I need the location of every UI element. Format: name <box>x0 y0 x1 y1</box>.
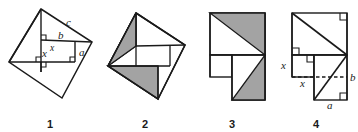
small-square-3 <box>210 55 232 77</box>
figure-1-graphic: c b a x x <box>0 0 100 110</box>
figure-4: x x b a 4 <box>274 0 358 132</box>
figure-4-caption: 4 <box>274 118 358 130</box>
figure-2: 2 <box>100 0 190 132</box>
figure-4-graphic: x x b a <box>274 0 358 110</box>
figure-2-caption: 2 <box>100 118 190 130</box>
label-b-4: b <box>350 71 356 83</box>
label-a-1: a <box>79 46 85 58</box>
small-square-4 <box>292 55 314 77</box>
label-a-4: a <box>327 99 333 110</box>
figure-2-graphic <box>100 0 190 110</box>
label-c-1: c <box>66 16 71 28</box>
figure-1-caption: 1 <box>0 118 100 130</box>
label-x-4a: x <box>280 59 286 71</box>
figure-3: 3 <box>190 0 274 132</box>
label-x-1a: x <box>49 43 55 53</box>
label-x-1b: x <box>41 47 47 59</box>
figure-3-caption: 3 <box>190 118 274 130</box>
label-x-4b: x <box>299 77 305 89</box>
diagram-canvas: c b a x x 1 2 <box>0 0 358 132</box>
figure-1: c b a x x 1 <box>0 0 100 132</box>
figure-3-graphic <box>190 0 274 110</box>
label-b-1: b <box>58 29 64 41</box>
